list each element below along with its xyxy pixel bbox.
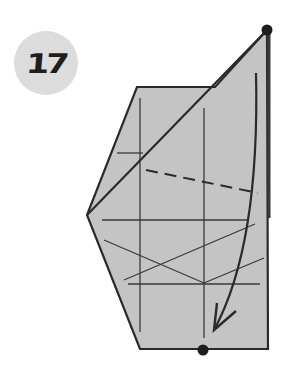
bottom-point-dot-icon	[198, 345, 209, 356]
step-number: 17	[25, 48, 67, 79]
step-number-badge: 17	[14, 31, 78, 95]
top-point-dot-icon	[262, 25, 273, 36]
